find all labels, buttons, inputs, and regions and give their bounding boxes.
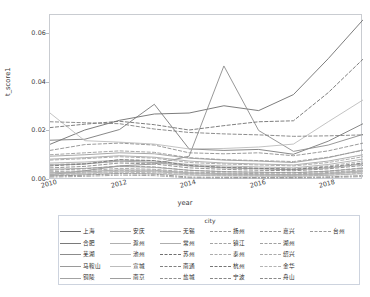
- legend-item-label: 合肥: [83, 241, 95, 247]
- legend-item-label: 南京: [133, 275, 145, 281]
- legend-item-label: 马鞍山: [83, 264, 101, 270]
- y-tick-label: 0.04: [31, 78, 46, 86]
- legend-item-label: 湖州: [283, 241, 295, 247]
- legend-item[interactable]: 金华: [260, 261, 310, 273]
- line-series: [50, 100, 363, 149]
- legend-item-label: 嘉兴: [283, 229, 295, 235]
- legend-item-label: 无锡: [183, 229, 195, 235]
- legend-line-swatch: [210, 264, 231, 270]
- legend-item[interactable]: 舟山: [260, 272, 310, 284]
- legend-item[interactable]: 盐城: [160, 272, 210, 284]
- legend-item-label: 杭州: [233, 264, 245, 270]
- chart-root: t_score1 0.000.020.040.06 20102012201420…: [0, 0, 370, 297]
- y-tick-label: 0.02: [31, 126, 46, 134]
- line-series: [50, 20, 363, 144]
- legend-item[interactable]: 滁州: [110, 238, 160, 250]
- legend-item[interactable]: 台州: [310, 226, 360, 238]
- legend-item[interactable]: 南京: [110, 272, 160, 284]
- legend-item-label: 铜陵: [83, 275, 95, 281]
- legend-item[interactable]: 马鞍山: [60, 261, 110, 273]
- legend-line-swatch: [160, 229, 181, 235]
- legend-item-label: 金华: [283, 264, 295, 270]
- legend-line-swatch: [210, 229, 231, 235]
- legend-item[interactable]: 镇江: [210, 238, 260, 250]
- legend-item[interactable]: 泰州: [210, 249, 260, 261]
- line-series: [50, 150, 363, 163]
- legend-item[interactable]: 嘉兴: [260, 226, 310, 238]
- legend-line-swatch: [160, 275, 181, 281]
- legend-line-swatch: [260, 275, 281, 281]
- legend-line-swatch: [60, 240, 81, 246]
- y-axis-ticks: 0.000.020.040.06: [13, 0, 46, 297]
- legend-line-swatch: [260, 229, 281, 235]
- legend-items: 上海安庆无锡扬州嘉兴台州合肥滁州常州镇江湖州芜湖池州苏州泰州绍兴马鞍山宣城南通杭…: [60, 226, 360, 284]
- legend-item[interactable]: 苏州: [160, 249, 210, 261]
- line-series: [50, 150, 363, 161]
- legend-item[interactable]: 宣城: [110, 261, 160, 273]
- legend-item-label: 南通: [183, 264, 195, 270]
- legend-line-swatch: [110, 229, 131, 235]
- legend-item-label: 苏州: [183, 252, 195, 258]
- legend-item[interactable]: 扬州: [210, 226, 260, 238]
- legend-item[interactable]: 绍兴: [260, 249, 310, 261]
- legend-item-label: 扬州: [233, 229, 245, 235]
- legend-item-label: 芜湖: [83, 252, 95, 258]
- legend-line-swatch: [60, 275, 81, 281]
- legend-item-label: 舟山: [283, 275, 295, 281]
- legend-item[interactable]: 上海: [60, 226, 110, 238]
- legend-title: city: [59, 217, 361, 224]
- legend-line-swatch: [60, 229, 81, 235]
- legend-item[interactable]: 芜湖: [60, 249, 110, 261]
- legend-item-label: 滁州: [133, 241, 145, 247]
- legend: city 上海安庆无锡扬州嘉兴台州合肥滁州常州镇江湖州芜湖池州苏州泰州绍兴马鞍山…: [58, 215, 360, 285]
- legend-item[interactable]: 无锡: [160, 226, 210, 238]
- legend-item[interactable]: 南通: [160, 261, 210, 273]
- legend-item-label: 台州: [333, 229, 345, 235]
- legend-item-label: 泰州: [233, 252, 245, 258]
- legend-line-swatch: [160, 252, 181, 258]
- legend-item-empty: [310, 238, 360, 250]
- legend-item[interactable]: 合肥: [60, 238, 110, 250]
- legend-item-label: 安庆: [133, 229, 145, 235]
- legend-item[interactable]: 常州: [160, 238, 210, 250]
- legend-item[interactable]: 宁波: [210, 272, 260, 284]
- legend-item-label: 池州: [133, 252, 145, 258]
- legend-item-label: 绍兴: [283, 252, 295, 258]
- legend-line-swatch: [60, 264, 81, 270]
- legend-line-swatch: [210, 240, 231, 246]
- legend-item[interactable]: 池州: [110, 249, 160, 261]
- legend-line-swatch: [260, 252, 281, 258]
- legend-line-swatch: [110, 264, 131, 270]
- legend-line-swatch: [260, 240, 281, 246]
- legend-item-empty: [310, 272, 360, 284]
- y-axis-label: t_score1: [4, 67, 12, 96]
- legend-item-label: 宁波: [233, 275, 245, 281]
- legend-line-swatch: [160, 264, 181, 270]
- plot-area: [49, 14, 362, 179]
- line-series: [50, 59, 363, 130]
- x-axis-label: year: [0, 199, 370, 207]
- legend-line-swatch: [210, 275, 231, 281]
- legend-item-empty: [310, 249, 360, 261]
- legend-item-label: 常州: [183, 241, 195, 247]
- legend-line-swatch: [310, 229, 331, 235]
- y-tick-label: 0.06: [31, 29, 46, 37]
- legend-item[interactable]: 杭州: [210, 261, 260, 273]
- legend-line-swatch: [210, 252, 231, 258]
- legend-item-label: 盐城: [183, 275, 195, 281]
- legend-line-swatch: [160, 240, 181, 246]
- legend-line-swatch: [60, 252, 81, 258]
- legend-line-swatch: [110, 240, 131, 246]
- legend-line-swatch: [260, 264, 281, 270]
- legend-item-label: 镇江: [233, 241, 245, 247]
- legend-item-empty: [310, 261, 360, 273]
- line-series-canvas: [50, 15, 363, 180]
- legend-item[interactable]: 铜陵: [60, 272, 110, 284]
- legend-line-swatch: [110, 252, 131, 258]
- legend-item[interactable]: 湖州: [260, 238, 310, 250]
- legend-line-swatch: [110, 275, 131, 281]
- legend-item[interactable]: 安庆: [110, 226, 160, 238]
- legend-item-label: 上海: [83, 229, 95, 235]
- legend-item-label: 宣城: [133, 264, 145, 270]
